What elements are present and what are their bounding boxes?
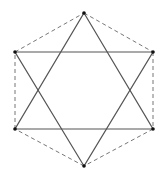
hexagon-edge-top-to-upper-right bbox=[84, 13, 153, 52]
hexagon-edge-lower-right-to-bottom bbox=[84, 129, 153, 166]
upward-triangle bbox=[15, 13, 153, 129]
outer-hexagon bbox=[15, 13, 153, 166]
star-triangles bbox=[15, 13, 153, 166]
vertex-lower-right bbox=[151, 127, 155, 131]
hexagon-edge-bottom-to-lower-left bbox=[15, 129, 84, 166]
vertex-upper-right bbox=[151, 50, 155, 54]
vertex-bottom bbox=[82, 164, 86, 168]
hexagram-diagram bbox=[0, 0, 160, 174]
vertex-top bbox=[82, 11, 86, 15]
vertex-points bbox=[13, 11, 155, 168]
vertex-lower-left bbox=[13, 127, 17, 131]
hexagon-edge-upper-left-to-top bbox=[15, 13, 84, 52]
downward-triangle bbox=[15, 52, 153, 166]
vertex-upper-left bbox=[13, 50, 17, 54]
